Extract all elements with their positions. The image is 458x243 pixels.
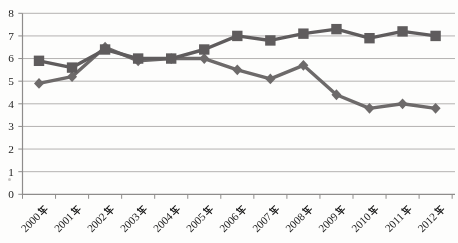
square-series-point-7 [265,35,275,45]
y-tick-label-3: 3 [8,120,14,132]
x-label-2002: 2002 [85,203,117,235]
x-label-digits: 2002 [85,210,109,234]
x-label-2008: 2008 [283,203,315,235]
x-label-2006: 2006 [217,203,249,235]
x-label-2003: 2003 [118,203,150,235]
square-series-point-10 [364,33,374,43]
y-axis-labels: 012345678 [8,7,22,200]
x-label-2007: 2007 [250,203,282,235]
y-tick-label-2: 2 [8,143,14,155]
x-label-2000: 2000 [19,203,51,235]
x-label-digits: 2009 [316,210,340,234]
x-label-2009: 2009 [316,203,348,235]
x-label-digits: 2006 [217,210,241,234]
square-series-point-3 [133,53,143,63]
diamond-series-point-6 [232,64,242,75]
diamond-series-point-12 [431,103,441,114]
line-chart: 0123456782000200120022003200420052006200… [0,0,458,243]
square-series-point-0 [34,56,44,66]
y-tick-label-6: 6 [8,52,14,64]
y-tick-label-0: 0 [8,188,14,200]
square-series-point-6 [232,31,242,41]
scan-artifact-dot [8,178,11,181]
x-axis-labels: 2000200120022003200420052006200720082009… [19,203,447,235]
diamond-series-point-11 [398,98,408,109]
square-series-point-8 [298,28,308,38]
diamond-series-point-10 [365,103,375,114]
x-label-2011: 2011 [382,203,413,234]
square-series-point-4 [166,53,176,63]
diamond-series [34,42,441,114]
square-series-point-5 [199,44,209,54]
square-series-point-2 [100,44,110,54]
x-label-2004: 2004 [151,203,183,235]
diamond-series-point-7 [265,74,275,85]
x-label-2010: 2010 [349,203,381,235]
x-label-digits: 2007 [250,210,274,234]
y-tick-label-4: 4 [8,98,14,110]
diamond-series-point-0 [34,78,44,89]
square-series-point-9 [331,24,341,34]
x-label-digits: 2003 [118,210,142,234]
square-series-point-1 [67,62,77,72]
x-label-2001: 2001 [52,203,84,235]
x-label-digits: 2011 [382,210,406,234]
x-label-2005: 2005 [184,203,216,235]
x-label-digits: 2004 [151,210,175,234]
diamond-series-line [39,47,436,108]
x-label-2012: 2012 [415,203,447,235]
diamond-series-point-5 [199,53,209,64]
x-label-digits: 2005 [184,210,208,234]
square-series-point-12 [430,31,440,41]
y-tick-label-5: 5 [8,75,14,87]
x-label-digits: 2000 [19,210,43,234]
x-label-digits: 2010 [349,210,373,234]
square-series-point-11 [397,26,407,36]
x-label-digits: 2001 [52,210,76,234]
x-label-digits: 2012 [415,210,439,234]
chart-canvas: 0123456782000200120022003200420052006200… [0,0,458,243]
y-tick-label-8: 8 [8,7,14,19]
x-axis-ticks [23,194,453,199]
y-tick-label-1: 1 [8,166,14,178]
x-label-digits: 2008 [283,210,307,234]
y-tick-label-7: 7 [8,30,14,42]
